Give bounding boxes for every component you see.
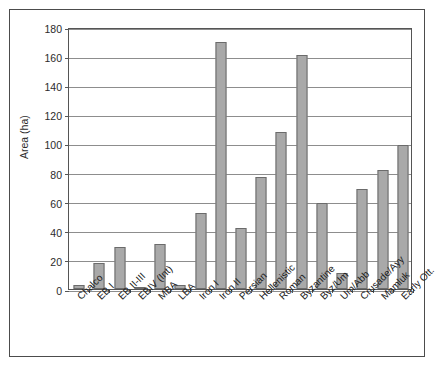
bar-slot bbox=[190, 29, 210, 289]
y-axis-title: Area (ha) bbox=[18, 115, 30, 159]
y-tick-label: 100 bbox=[44, 139, 62, 151]
bar-slot bbox=[271, 29, 291, 289]
y-tick-mark bbox=[65, 291, 69, 292]
bar[interactable] bbox=[114, 247, 125, 289]
bar[interactable] bbox=[195, 213, 206, 289]
bar-slot bbox=[251, 29, 271, 289]
bar-slot bbox=[69, 29, 89, 289]
bars-layer bbox=[69, 29, 411, 289]
y-tick-label: 60 bbox=[50, 198, 62, 210]
bar-slot bbox=[231, 29, 251, 289]
bar-slot bbox=[373, 29, 393, 289]
y-tick-label: 40 bbox=[50, 227, 62, 239]
bar-slot bbox=[130, 29, 150, 289]
bar[interactable] bbox=[296, 55, 307, 289]
y-tick-label: 20 bbox=[50, 256, 62, 268]
bar-slot bbox=[211, 29, 231, 289]
plot-area: 020406080100120140160180 bbox=[68, 28, 412, 290]
bar-slot bbox=[393, 29, 413, 289]
bar-slot bbox=[170, 29, 190, 289]
bar[interactable] bbox=[215, 42, 226, 289]
bar-slot bbox=[332, 29, 352, 289]
y-tick-label: 80 bbox=[50, 169, 62, 181]
x-axis-labels: ChalcoEB IEB II-IIIEBIV (Int)MBALBAIron … bbox=[68, 294, 412, 364]
bar-slot bbox=[109, 29, 129, 289]
bar-slot bbox=[292, 29, 312, 289]
y-tick-label: 140 bbox=[44, 81, 62, 93]
y-tick-label: 0 bbox=[56, 285, 62, 297]
bar-slot bbox=[312, 29, 332, 289]
y-tick-label: 160 bbox=[44, 52, 62, 64]
bar-slot bbox=[352, 29, 372, 289]
y-tick-label: 120 bbox=[44, 110, 62, 122]
y-tick-label: 180 bbox=[44, 23, 62, 35]
bar-slot bbox=[150, 29, 170, 289]
bar-slot bbox=[89, 29, 109, 289]
